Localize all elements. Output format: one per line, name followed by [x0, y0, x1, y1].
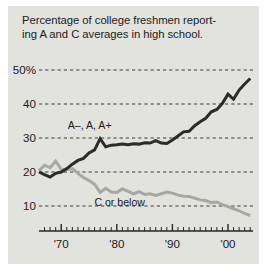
- x-axis-tick-label: '90: [152, 237, 192, 250]
- x-axis-tick-label: '80: [97, 237, 137, 250]
- x-axis: [39, 224, 253, 231]
- x-axis-tick-label: '70: [41, 237, 81, 250]
- y-axis-tick-label: 50%: [13, 63, 36, 76]
- x-axis-tick-label: '00: [208, 237, 248, 250]
- series-label-a: A–, A, A+: [68, 119, 112, 131]
- y-axis-tick-label: 10: [23, 199, 36, 212]
- y-axis-tick-label: 40: [23, 97, 36, 110]
- y-axis-tick-label: 20: [23, 165, 36, 178]
- plot-area: [0, 0, 267, 274]
- y-axis-tick-label: 30: [23, 131, 36, 144]
- series-label-c: C or below: [94, 196, 145, 208]
- figure: Percentage of college freshmen report- i…: [0, 0, 267, 274]
- gridlines: [39, 70, 253, 206]
